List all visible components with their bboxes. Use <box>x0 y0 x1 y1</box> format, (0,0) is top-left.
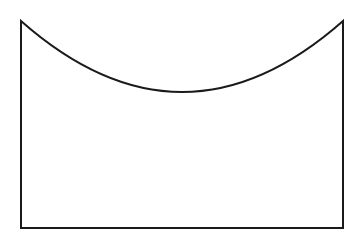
shape-outline <box>21 21 343 228</box>
diagram-canvas <box>0 0 360 241</box>
concave-shape-figure <box>0 0 360 241</box>
